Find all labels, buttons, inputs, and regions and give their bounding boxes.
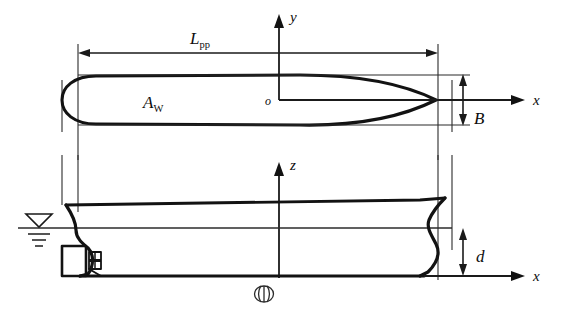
profile-perpendicular-lines	[62, 155, 452, 280]
lpp-dimension-line	[78, 49, 438, 57]
x-axis-plan-label: x	[532, 92, 540, 108]
midship-section-symbol	[255, 286, 274, 302]
z-axis-arrowhead	[274, 162, 284, 176]
y-axis	[274, 14, 284, 100]
y-axis-label: y	[288, 9, 297, 25]
beam-arrow-down	[459, 114, 467, 126]
z-axis-label: z	[289, 157, 296, 173]
x-axis-plan	[279, 95, 525, 105]
x-axis-plan-arrowhead	[511, 95, 525, 105]
waterplane-area-label: AW	[142, 93, 163, 114]
beam-arrow-up	[459, 74, 467, 86]
deck-sheer-line	[66, 198, 445, 205]
waterline-level-symbol	[26, 214, 52, 246]
x-axis-profile-arrowhead	[511, 271, 525, 281]
rudder	[62, 246, 86, 276]
ship-dimensions-diagram: y x o Lpp AW B	[0, 0, 567, 312]
x-axis-profile	[424, 271, 525, 281]
y-axis-arrowhead	[274, 14, 284, 28]
draught-dimension-line	[459, 228, 467, 276]
draught-arrow-down	[459, 264, 467, 276]
beam-label: B	[474, 109, 485, 128]
z-axis	[274, 162, 284, 278]
x-axis-profile-label: x	[532, 268, 540, 284]
forward-perpendicular-lines	[438, 44, 452, 160]
lpp-arrow-left	[78, 49, 90, 57]
aft-perpendicular-lines	[62, 44, 78, 160]
origin-label: o	[265, 94, 271, 108]
bow-stem-profile	[420, 198, 445, 276]
lpp-arrow-right	[426, 49, 438, 57]
diagram-canvas: y x o Lpp AW B	[0, 0, 567, 312]
draught-label: d	[476, 247, 485, 266]
draught-arrow-up	[459, 228, 467, 240]
lpp-label: Lpp	[189, 29, 210, 50]
